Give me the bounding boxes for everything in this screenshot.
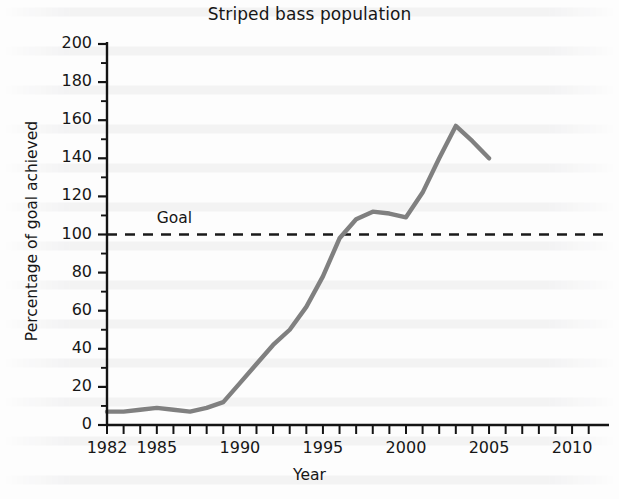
data-series-line bbox=[107, 126, 489, 412]
x-tick-label: 1990 bbox=[205, 438, 275, 457]
y-tick-label: 180 bbox=[32, 71, 92, 90]
y-tick-label: 200 bbox=[32, 33, 92, 52]
y-tick-label: 100 bbox=[32, 224, 92, 243]
plot-area bbox=[0, 0, 619, 499]
y-tick-label: 160 bbox=[32, 109, 92, 128]
chart-figure: Striped bass population Percentage of go… bbox=[0, 0, 619, 499]
x-tick-label: 1995 bbox=[288, 438, 358, 457]
x-tick-label: 1985 bbox=[122, 438, 192, 457]
goal-annotation-label: Goal bbox=[157, 209, 192, 227]
y-tick-label: 120 bbox=[32, 185, 92, 204]
x-tick-label: 2010 bbox=[537, 438, 607, 457]
x-tick-label: 2000 bbox=[371, 438, 441, 457]
y-tick-label: 80 bbox=[32, 262, 92, 281]
y-tick-label: 20 bbox=[32, 376, 92, 395]
x-tick-label: 2005 bbox=[454, 438, 524, 457]
y-tick-label: 0 bbox=[32, 414, 92, 433]
y-tick-label: 60 bbox=[32, 300, 92, 319]
y-tick-label: 40 bbox=[32, 338, 92, 357]
y-tick-label: 140 bbox=[32, 147, 92, 166]
x-axis-minor-ticks bbox=[107, 425, 589, 434]
